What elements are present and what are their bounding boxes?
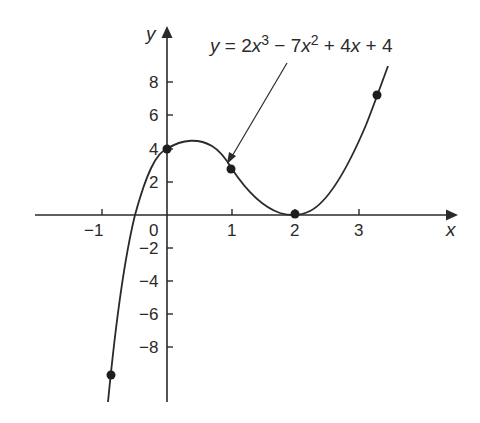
x-tick-label: 1 (227, 221, 236, 240)
data-point (163, 145, 172, 154)
y-axis-label: y (144, 23, 157, 44)
annotation-arrow (227, 63, 287, 164)
equation-label: y = 2x3 − 7x2 + 4x + 4 (208, 32, 393, 56)
data-point (107, 371, 116, 380)
y-tick-label: 2 (149, 173, 158, 192)
y-tick-label: 8 (149, 73, 158, 92)
marked-points (107, 91, 382, 380)
data-point (373, 91, 382, 100)
x-tick-label: 2 (290, 221, 299, 240)
x-tick-label: −1 (84, 221, 103, 240)
x-axis: −1 1 2 3 x (35, 209, 458, 240)
y-tick-label: −2 (139, 239, 158, 258)
y-axis-arrow-icon (162, 26, 173, 38)
arrowhead-icon (227, 152, 236, 164)
origin-label: 0 (149, 221, 158, 240)
y-tick-label: 6 (149, 106, 158, 125)
y-tick-label: −6 (139, 305, 158, 324)
data-point (291, 210, 300, 219)
data-point (227, 165, 236, 174)
y-tick-label: −8 (139, 338, 158, 357)
y-tick-label: −4 (139, 272, 158, 291)
cubic-function-graph: −1 1 2 3 x 8 6 4 2 −2 −4 −6 −8 0 y (0, 0, 480, 423)
x-tick-label: 3 (354, 221, 363, 240)
y-axis: 8 6 4 2 −2 −4 −6 −8 0 y (139, 23, 173, 402)
x-axis-label: x (445, 219, 457, 240)
